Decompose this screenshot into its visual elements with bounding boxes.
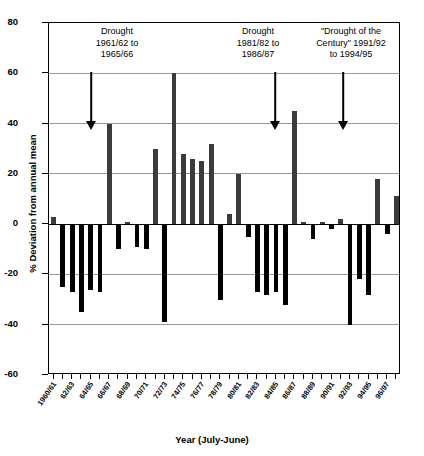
bar	[135, 224, 140, 247]
down-arrow-icon	[85, 72, 97, 130]
x-tick-mark	[349, 374, 350, 379]
bar	[338, 219, 343, 224]
x-tick-mark	[229, 374, 230, 379]
bar	[264, 224, 269, 294]
x-tick-mark	[145, 374, 146, 379]
y-tick-label: 0	[0, 218, 18, 228]
x-tick-mark	[293, 374, 294, 379]
bar	[107, 124, 112, 225]
x-tick-mark	[247, 374, 248, 379]
bar	[301, 222, 306, 225]
bar	[311, 224, 316, 239]
bar	[375, 179, 380, 224]
bar	[88, 224, 93, 289]
x-tick-mark	[53, 374, 54, 379]
bar	[199, 161, 204, 224]
x-tick-mark	[321, 374, 322, 379]
y-tick-label: -20	[0, 269, 18, 279]
x-tick-mark	[80, 374, 81, 379]
annotation-3: "Drought of the Century" 1991/92 to 1994…	[300, 26, 402, 61]
x-tick-mark	[256, 374, 257, 379]
x-tick-mark	[303, 374, 304, 379]
bar	[366, 224, 371, 294]
x-tick-mark	[90, 374, 91, 379]
bar	[385, 224, 390, 234]
gridline	[49, 173, 399, 174]
bar	[255, 224, 260, 292]
bar	[125, 222, 130, 225]
bar	[70, 224, 75, 292]
x-tick-mark	[155, 374, 156, 379]
x-tick-mark	[201, 374, 202, 379]
bar	[60, 224, 65, 287]
bar	[329, 224, 334, 229]
down-arrow-icon	[337, 72, 349, 130]
bar	[144, 224, 149, 249]
x-tick-mark	[99, 374, 100, 379]
x-tick-mark	[182, 374, 183, 379]
x-tick-mark	[266, 374, 267, 379]
x-tick-mark	[127, 374, 128, 379]
bar	[292, 111, 297, 224]
y-tick-mark	[42, 374, 48, 375]
x-tick-mark	[395, 374, 396, 379]
bar	[209, 144, 214, 224]
x-tick-mark	[117, 374, 118, 379]
bar	[283, 224, 288, 304]
y-axis-title: % Deviation from annual mean	[27, 94, 38, 314]
bar	[162, 224, 167, 322]
x-tick-mark	[108, 374, 109, 379]
x-tick-mark	[275, 374, 276, 379]
x-tick-mark	[62, 374, 63, 379]
bar	[236, 174, 241, 224]
x-tick-mark	[164, 374, 165, 379]
x-tick-mark	[192, 374, 193, 379]
bar	[357, 224, 362, 279]
bar	[51, 217, 56, 225]
chart-container: % Deviation from annual mean 806040200-2…	[0, 0, 424, 456]
x-axis-title: Year (July-June)	[0, 434, 424, 445]
bar	[116, 224, 121, 249]
x-tick-mark	[358, 374, 359, 379]
y-tick-label: 80	[0, 17, 18, 27]
x-tick-mark	[368, 374, 369, 379]
annotation-1: Drought 1961/62 to 1965/66	[62, 26, 172, 61]
x-tick-mark	[238, 374, 239, 379]
bar	[227, 214, 232, 224]
bar	[172, 73, 177, 224]
x-tick-mark	[340, 374, 341, 379]
x-tick-mark	[210, 374, 211, 379]
bar	[348, 224, 353, 325]
bar	[274, 224, 279, 292]
x-tick-mark	[71, 374, 72, 379]
x-tick-mark	[219, 374, 220, 379]
bar	[218, 224, 223, 299]
bar	[79, 224, 84, 312]
bar	[320, 222, 325, 225]
bar	[190, 159, 195, 224]
y-tick-label: 60	[0, 68, 18, 78]
bar	[181, 154, 186, 224]
x-tick-mark	[386, 374, 387, 379]
y-tick-label: 20	[0, 168, 18, 178]
x-tick-mark	[331, 374, 332, 379]
annotation-2: Drought 1981/82 to 1986/87	[214, 26, 302, 61]
down-arrow-icon	[269, 72, 281, 130]
x-tick-mark	[173, 374, 174, 379]
x-tick-mark	[377, 374, 378, 379]
bar	[98, 224, 103, 292]
y-tick-label: -60	[0, 369, 18, 379]
bar	[153, 149, 158, 224]
gridline	[49, 324, 399, 325]
y-tick-label: 40	[0, 118, 18, 128]
bar	[394, 196, 399, 224]
x-tick-mark	[312, 374, 313, 379]
x-tick-mark	[136, 374, 137, 379]
y-tick-label: -40	[0, 319, 18, 329]
bar	[246, 224, 251, 237]
x-tick-mark	[284, 374, 285, 379]
